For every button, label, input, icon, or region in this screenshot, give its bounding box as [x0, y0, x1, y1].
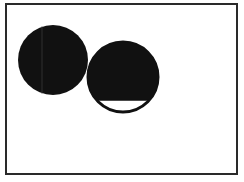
left-circle	[18, 25, 88, 95]
figure	[0, 0, 244, 182]
right-circle	[88, 42, 158, 112]
diagram-canvas	[0, 0, 244, 182]
